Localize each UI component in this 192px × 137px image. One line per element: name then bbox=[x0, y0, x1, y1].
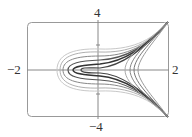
y-min-label: −4 bbox=[89, 120, 103, 133]
x-max-label: 2 bbox=[172, 63, 179, 76]
contour-plot bbox=[0, 0, 192, 137]
y-max-label: 4 bbox=[94, 6, 101, 19]
x-min-label: −2 bbox=[7, 63, 21, 76]
